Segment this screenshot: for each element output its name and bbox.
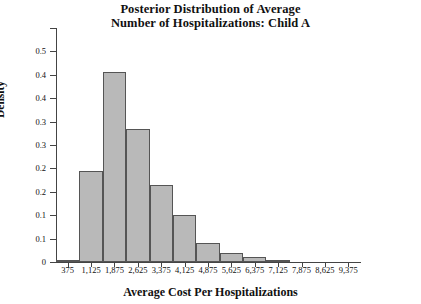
x-tick-label: 9,375 xyxy=(328,266,368,275)
histogram-bar xyxy=(56,260,79,262)
histogram-bar xyxy=(126,129,149,262)
y-tick-label: 0.4 xyxy=(0,71,46,80)
plot-area xyxy=(56,28,360,262)
histogram-bar xyxy=(220,253,243,262)
y-tick-label: 0.2 xyxy=(0,164,46,173)
histogram-bar xyxy=(103,72,126,262)
histogram-chart: Posterior Distribution of Average Number… xyxy=(0,0,421,304)
histogram-bar xyxy=(173,215,196,262)
histogram-bar xyxy=(150,185,173,262)
y-tick-mark xyxy=(50,262,56,263)
y-tick-label: 0.5 xyxy=(0,47,46,56)
y-tick-label: 0 xyxy=(0,258,46,267)
x-axis-title: Average Cost Per Hospitalizations xyxy=(0,285,421,300)
chart-title-line-1: Posterior Distribution of Average xyxy=(0,2,421,16)
y-tick-label: 0.3 xyxy=(0,118,46,127)
y-tick-label: 0.1 xyxy=(0,235,46,244)
y-tick-label: 0.4 xyxy=(0,94,46,103)
y-tick-label: 0.2 xyxy=(0,188,46,197)
y-tick-label: 0.3 xyxy=(0,141,46,150)
chart-title: Posterior Distribution of Average Number… xyxy=(0,2,421,30)
y-tick-label: 0.1 xyxy=(0,211,46,220)
histogram-bar xyxy=(79,171,102,262)
histogram-bar xyxy=(266,260,289,262)
histogram-bar xyxy=(196,243,219,262)
histogram-bar xyxy=(243,257,266,262)
